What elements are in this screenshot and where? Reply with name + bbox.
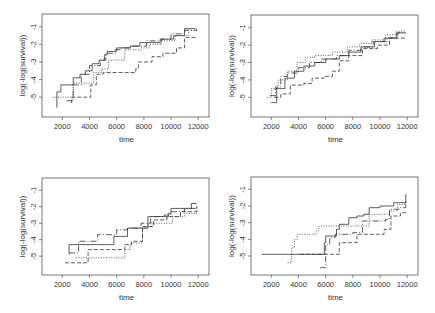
y-tick-label: -2 bbox=[238, 42, 247, 49]
y-tick-label: -1 bbox=[238, 24, 247, 31]
x-tick-label: 4000 bbox=[81, 122, 98, 131]
series-dashed-line bbox=[274, 38, 406, 97]
x-tick-label: 6000 bbox=[108, 122, 125, 131]
x-tick-label: 10000 bbox=[370, 122, 391, 131]
panel-top-left: 20004000600080001000012000-1-2-3-4-5time… bbox=[18, 14, 209, 144]
x-tick-label: 10000 bbox=[161, 122, 182, 131]
series-solid-line bbox=[57, 29, 196, 108]
y-axis-label: log(-log(survival)) bbox=[18, 195, 27, 257]
y-tick-label: -1 bbox=[238, 186, 247, 193]
x-axis-label: time bbox=[328, 293, 344, 302]
y-tick-label: -1 bbox=[29, 23, 38, 30]
y-tick-label: -4 bbox=[238, 236, 247, 243]
x-tick-label: 2000 bbox=[54, 122, 71, 131]
series-dotted-line bbox=[76, 208, 197, 257]
x-tick-label: 2000 bbox=[54, 280, 71, 289]
x-tick-label: 10000 bbox=[370, 280, 391, 289]
x-tick-label: 12000 bbox=[188, 280, 209, 289]
series-solid-line bbox=[69, 203, 197, 254]
y-tick-label: -5 bbox=[238, 253, 247, 260]
y-tick-label: -4 bbox=[29, 76, 38, 83]
x-tick-label: 6000 bbox=[317, 280, 334, 289]
series-dashed-line bbox=[71, 37, 196, 102]
y-tick-label: -3 bbox=[238, 219, 247, 226]
x-tick-label: 4000 bbox=[290, 280, 307, 289]
x-tick-label: 8000 bbox=[136, 122, 153, 131]
x-tick-label: 10000 bbox=[161, 280, 182, 289]
series-solid-line bbox=[271, 33, 406, 103]
x-tick-label: 4000 bbox=[290, 122, 307, 131]
y-tick-label: -2 bbox=[29, 203, 38, 210]
y-tick-label: -5 bbox=[29, 253, 38, 260]
panel-bottom-right: 20004000600080001000012000-1-2-3-4-5time… bbox=[227, 177, 418, 302]
x-tick-label: 12000 bbox=[397, 122, 418, 131]
x-tick-label: 4000 bbox=[81, 280, 98, 289]
series-dot-dash-line bbox=[320, 201, 406, 268]
series-dot-dash-line bbox=[69, 205, 197, 253]
plot-frame bbox=[42, 14, 209, 117]
x-tick-label: 6000 bbox=[317, 122, 334, 131]
y-tick-label: -5 bbox=[238, 94, 247, 101]
series-dashed-line bbox=[65, 207, 197, 263]
y-tick-label: -4 bbox=[29, 236, 38, 243]
x-axis-label: time bbox=[119, 135, 135, 144]
series-dotted-line bbox=[53, 30, 197, 97]
series-dotted-line bbox=[267, 31, 406, 97]
x-tick-label: 12000 bbox=[397, 280, 418, 289]
x-tick-label: 8000 bbox=[345, 280, 362, 289]
panel-top-right: 20004000600080001000012000-1-2-3-4-5time… bbox=[227, 15, 418, 144]
y-tick-label: -1 bbox=[29, 187, 38, 194]
x-tick-label: 8000 bbox=[136, 280, 153, 289]
chart-figure: 20004000600080001000012000-1-2-3-4-5time… bbox=[0, 0, 435, 313]
x-tick-label: 8000 bbox=[345, 122, 362, 131]
y-axis-label: log(-log(survival)) bbox=[227, 195, 236, 257]
plot-frame bbox=[251, 177, 418, 275]
series-dotted-line bbox=[288, 201, 406, 263]
x-axis-label: time bbox=[119, 293, 135, 302]
x-tick-label: 2000 bbox=[263, 280, 280, 289]
x-tick-label: 6000 bbox=[108, 280, 125, 289]
panel-bottom-left: 20004000600080001000012000-1-2-3-4-5time… bbox=[18, 178, 209, 302]
y-tick-label: -2 bbox=[29, 41, 38, 48]
y-tick-label: -3 bbox=[238, 59, 247, 66]
series-dot-dash-line bbox=[66, 29, 196, 101]
x-axis-label: time bbox=[328, 135, 344, 144]
y-tick-label: -4 bbox=[238, 77, 247, 84]
plot-frame bbox=[42, 178, 209, 275]
plot-frame bbox=[251, 15, 418, 117]
y-tick-label: -3 bbox=[29, 220, 38, 227]
x-tick-label: 2000 bbox=[263, 122, 280, 131]
series-solid-line bbox=[262, 194, 406, 254]
y-tick-label: -2 bbox=[238, 203, 247, 210]
y-axis-label: log(-log(survival)) bbox=[18, 34, 27, 96]
x-tick-label: 12000 bbox=[188, 122, 209, 131]
y-axis-label: log(-log(survival)) bbox=[227, 35, 236, 97]
y-tick-label: -3 bbox=[29, 59, 38, 66]
y-tick-label: -5 bbox=[29, 94, 38, 101]
